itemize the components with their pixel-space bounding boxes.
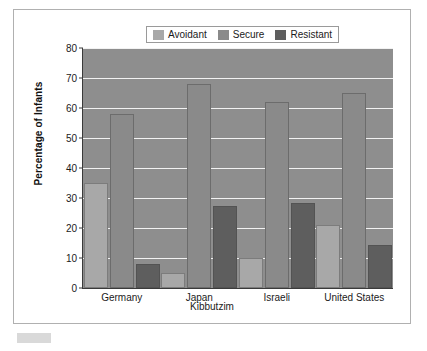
x-axis-title: Kibbutzim bbox=[14, 301, 410, 312]
figure-frame: Avoidant Secure Resistant Percentage of … bbox=[13, 9, 411, 324]
bar-secure-germany bbox=[110, 114, 134, 288]
legend-swatch-secure bbox=[218, 30, 229, 40]
y-tick-label-0: 0 bbox=[71, 283, 77, 294]
legend-entry-resistant: Resistant bbox=[275, 29, 332, 40]
bar-secure-united-states bbox=[342, 93, 366, 288]
bar-avoidant-germany bbox=[84, 183, 108, 288]
bar-secure-israeli bbox=[265, 102, 289, 288]
bar-secure-japan bbox=[187, 84, 211, 288]
legend-swatch-avoidant bbox=[153, 30, 164, 40]
y-tick-label-50: 50 bbox=[66, 133, 77, 144]
corner-marker bbox=[17, 333, 51, 343]
legend-label-secure: Secure bbox=[233, 29, 265, 40]
bars-layer bbox=[83, 48, 393, 288]
bar-resistant-germany bbox=[136, 264, 160, 288]
legend-entry-avoidant: Avoidant bbox=[153, 29, 207, 40]
legend-label-avoidant: Avoidant bbox=[168, 29, 207, 40]
chart-legend: Avoidant Secure Resistant bbox=[146, 26, 339, 43]
y-tick-label-70: 70 bbox=[66, 73, 77, 84]
bar-resistant-united-states bbox=[368, 245, 392, 289]
bar-avoidant-united-states bbox=[316, 225, 340, 288]
y-tick-label-60: 60 bbox=[66, 103, 77, 114]
y-tick-label-10: 10 bbox=[66, 253, 77, 264]
bar-avoidant-japan bbox=[161, 273, 185, 288]
plot-area: 01020304050607080 GermanyJapanIsraeliUni… bbox=[82, 48, 393, 289]
bar-resistant-israeli bbox=[291, 203, 315, 289]
legend-swatch-resistant bbox=[275, 30, 286, 40]
y-tick-label-80: 80 bbox=[66, 43, 77, 54]
legend-label-resistant: Resistant bbox=[290, 29, 332, 40]
y-tick-label-30: 30 bbox=[66, 193, 77, 204]
bar-resistant-japan bbox=[213, 206, 237, 289]
y-tick-label-40: 40 bbox=[66, 163, 77, 174]
legend-entry-secure: Secure bbox=[218, 29, 265, 40]
y-tick-label-20: 20 bbox=[66, 223, 77, 234]
y-axis-title: Percentage of Infants bbox=[33, 64, 44, 204]
bar-avoidant-israeli bbox=[239, 258, 263, 288]
